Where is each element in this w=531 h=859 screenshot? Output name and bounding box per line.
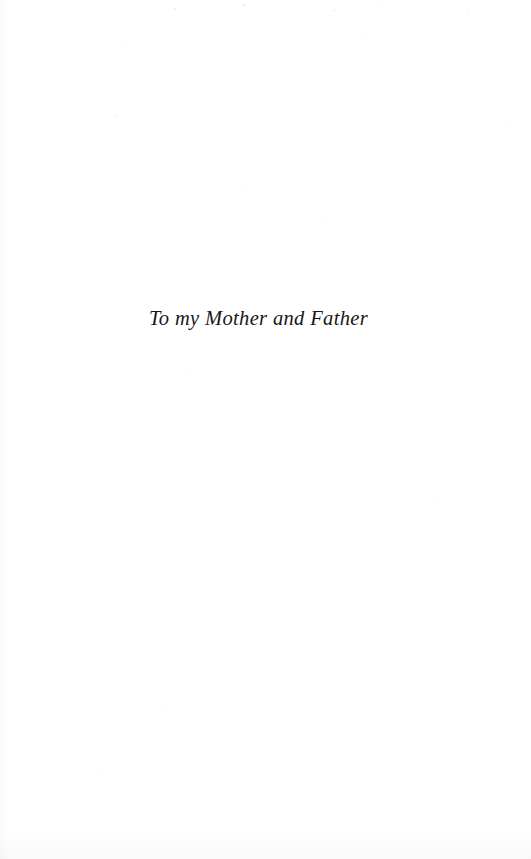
dedication-text: To my Mother and Father <box>149 305 368 331</box>
dedication-block: To my Mother and Father <box>0 305 531 331</box>
scan-edge-shadow-bottom <box>0 825 531 859</box>
scan-noise-overlay <box>0 0 531 859</box>
scan-edge-shadow-left <box>0 0 10 859</box>
dedication-page: To my Mother and Father <box>0 0 531 859</box>
